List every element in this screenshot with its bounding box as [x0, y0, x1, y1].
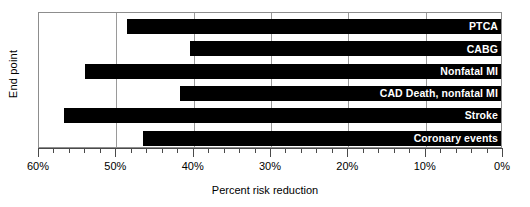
bar-label: CABG — [467, 44, 501, 55]
major-tick-10 — [425, 148, 426, 157]
minor-tick-16 — [378, 148, 379, 153]
minor-tick-48 — [131, 148, 132, 153]
bar-row[interactable]: PTCA — [127, 19, 501, 34]
x-tick-label-50: 50% — [104, 160, 126, 172]
minor-tick-22 — [332, 148, 333, 153]
minor-tick-6 — [456, 148, 457, 153]
minor-tick-14 — [394, 148, 395, 153]
minor-tick-58 — [53, 148, 54, 153]
minor-tick-36 — [224, 148, 225, 153]
bar-row[interactable]: Nonfatal MI — [85, 64, 501, 79]
minor-tick-32 — [255, 148, 256, 153]
minor-tick-24 — [316, 148, 317, 153]
x-tick-label-20: 20% — [336, 160, 358, 172]
y-axis-title-text: End point — [7, 50, 19, 98]
minor-tick-8 — [440, 148, 441, 153]
minor-tick-18 — [363, 148, 364, 153]
major-tick-60 — [38, 148, 39, 157]
major-tick-0 — [502, 148, 503, 157]
minor-tick-2 — [487, 148, 488, 153]
bar-row[interactable]: Coronary events — [143, 131, 501, 146]
bar-label: Coronary events — [414, 133, 501, 144]
bar-label: Stroke — [465, 110, 501, 121]
x-tick-label-40: 40% — [182, 160, 204, 172]
minor-tick-28 — [285, 148, 286, 153]
bars-layer: PTCACABGNonfatal MICAD Death, nonfatal M… — [39, 13, 501, 147]
minor-tick-38 — [208, 148, 209, 153]
x-tick-label-0: 0% — [494, 160, 510, 172]
x-tick-label-60: 60% — [27, 160, 49, 172]
minor-tick-46 — [146, 148, 147, 153]
minor-tick-42 — [177, 148, 178, 153]
x-tick-label-10: 10% — [414, 160, 436, 172]
minor-tick-12 — [409, 148, 410, 153]
major-tick-40 — [193, 148, 194, 157]
minor-tick-44 — [162, 148, 163, 153]
bar-row[interactable]: CABG — [190, 41, 501, 56]
minor-tick-26 — [301, 148, 302, 153]
major-tick-50 — [115, 148, 116, 157]
risk-reduction-bar-chart: End point PTCACABGNonfatal MICAD Death, … — [0, 0, 530, 207]
x-tick-label-30: 30% — [259, 160, 281, 172]
y-axis-title: End point — [2, 0, 24, 148]
bar-row[interactable]: Stroke — [64, 108, 501, 123]
x-axis-title: Percent risk reduction — [0, 184, 530, 196]
minor-tick-4 — [471, 148, 472, 153]
minor-tick-52 — [100, 148, 101, 153]
bar-label: CAD Death, nonfatal MI — [380, 88, 501, 99]
bar-label: Nonfatal MI — [440, 66, 501, 77]
plot-area: PTCACABGNonfatal MICAD Death, nonfatal M… — [38, 12, 502, 148]
major-tick-20 — [347, 148, 348, 157]
minor-tick-34 — [239, 148, 240, 153]
minor-tick-54 — [84, 148, 85, 153]
major-tick-30 — [270, 148, 271, 157]
bar-label: PTCA — [469, 21, 501, 32]
minor-tick-56 — [69, 148, 70, 153]
bar-row[interactable]: CAD Death, nonfatal MI — [180, 86, 501, 101]
